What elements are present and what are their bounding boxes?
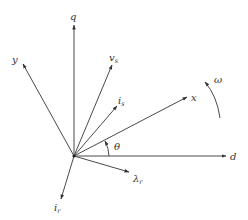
q-axis-label: q	[70, 11, 76, 22]
lambda-r-vector	[74, 156, 129, 172]
vs-vector	[74, 65, 112, 156]
theta-arc	[105, 141, 109, 156]
y-axis-label: y	[11, 54, 18, 65]
d-axis-label: d	[230, 151, 236, 162]
origin-dot	[72, 154, 75, 157]
y-axis	[23, 64, 74, 156]
ir-vector-label: ir	[54, 202, 61, 215]
x-axis	[74, 97, 187, 156]
ir-vector	[61, 156, 74, 199]
omega-rotation-arrow	[205, 82, 220, 118]
theta-label: θ	[114, 141, 120, 152]
is-vector-label: is	[118, 95, 125, 108]
dq-vector-diagram: q y vs is x d λr ir θ ω	[0, 0, 248, 220]
is-vector	[74, 106, 117, 156]
x-axis-label: x	[191, 92, 197, 103]
omega-label: ω	[214, 74, 222, 85]
lambda-r-vector-label: λr	[132, 173, 143, 186]
vs-vector-label: vs	[109, 52, 119, 65]
